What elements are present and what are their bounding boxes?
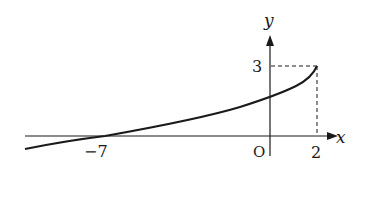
- tick-label-y: 3: [252, 57, 262, 76]
- tick-label-x-pos: 2: [311, 143, 321, 162]
- y-axis-arrow-icon: [266, 35, 274, 46]
- tick-label-x-neg: −7: [84, 142, 108, 161]
- x-axis-label: x: [336, 127, 346, 147]
- origin-label: O: [253, 143, 265, 161]
- y-axis-label: y: [263, 10, 274, 30]
- graph-canvas: y x O −7 2 3: [0, 0, 368, 221]
